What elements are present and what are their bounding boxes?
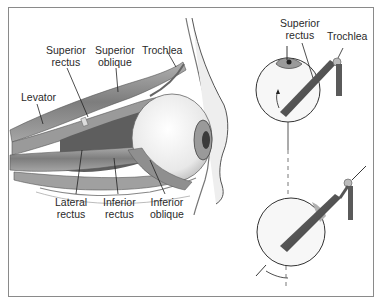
label-trochlea: Trochlea [142,44,182,56]
label-lateral-rectus: Lateral rectus [55,196,87,220]
label-superior-rectus: Superior rectus [46,44,86,68]
label-levator: Levator [21,91,56,103]
label-trochlea-right: Trochlea [327,30,367,42]
eyeball-top-view-upper [256,43,343,150]
label-inferior-oblique: Inferior oblique [150,196,184,220]
label-inferior-rectus: Inferior rectus [103,196,136,220]
label-superior-oblique: Superior oblique [95,44,135,68]
eyeball-top-view-lower [256,150,366,290]
label-superior-rectus-right: Superior rectus [280,17,320,41]
